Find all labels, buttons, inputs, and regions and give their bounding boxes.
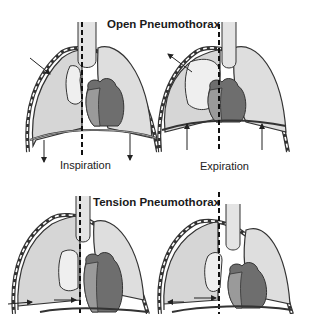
open-inspiration-label: Inspiration bbox=[60, 159, 111, 171]
open-pneumothorax-title: Open Pneumothorax bbox=[107, 18, 220, 30]
open-inspiration-thorax bbox=[27, 22, 158, 162]
tension-pneumothorax-title: Tension Pneumothorax bbox=[93, 196, 220, 208]
tension-expiration-thorax bbox=[159, 192, 292, 314]
pneumothorax-diagram: Open Pneumothorax Inspiration Expiration… bbox=[0, 0, 312, 314]
open-expiration-label: Expiration bbox=[200, 160, 249, 172]
open-expiration-thorax bbox=[159, 22, 288, 152]
tension-inspiration-thorax bbox=[8, 196, 148, 314]
diagram-graphics bbox=[0, 0, 312, 314]
